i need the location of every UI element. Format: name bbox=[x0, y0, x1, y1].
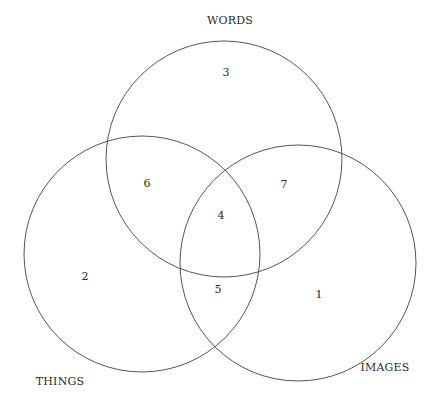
region-number-6: 6 bbox=[144, 177, 151, 190]
circle-things bbox=[24, 136, 260, 372]
region-number-2: 2 bbox=[82, 270, 89, 283]
region-number-3: 3 bbox=[223, 66, 230, 79]
set-label-words: WORDS bbox=[207, 14, 253, 27]
venn-svg: WORDSTHINGSIMAGES 1234567 bbox=[0, 0, 445, 400]
venn-diagram: WORDSTHINGSIMAGES 1234567 bbox=[0, 0, 445, 400]
circle-images bbox=[180, 145, 416, 381]
region-numbers: 1234567 bbox=[82, 66, 323, 301]
region-number-1: 1 bbox=[316, 288, 323, 301]
set-label-images: IMAGES bbox=[360, 361, 409, 374]
region-number-5: 5 bbox=[215, 283, 222, 296]
set-label-things: THINGS bbox=[36, 375, 84, 388]
region-number-4: 4 bbox=[218, 209, 225, 222]
region-number-7: 7 bbox=[281, 178, 288, 191]
